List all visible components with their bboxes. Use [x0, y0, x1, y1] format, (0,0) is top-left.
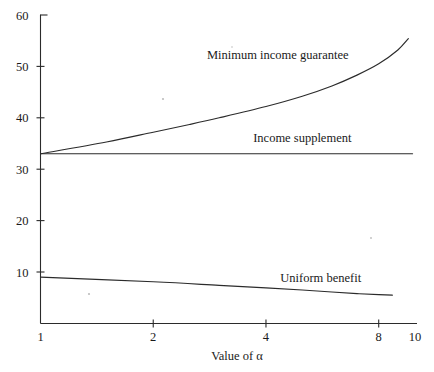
line-chart: 102030405060 124810 Minimum income guara…: [0, 0, 434, 372]
y-tick-label: 20: [16, 214, 29, 228]
series-label-income-supplement: Income supplement: [253, 131, 352, 145]
series-label-minimum-income-guarantee: Minimum income guarantee: [207, 48, 349, 62]
y-tick-label: 50: [16, 60, 29, 74]
x-tick-label: 10: [409, 330, 422, 344]
x-tick-label: 8: [376, 330, 382, 344]
y-tick-label: 60: [16, 9, 29, 23]
y-tick-label: 40: [16, 111, 29, 125]
x-axis-title: Value of α: [211, 349, 263, 363]
y-tick-label: 30: [16, 163, 29, 177]
x-tick-label: 4: [263, 330, 270, 344]
y-tick-label: 10: [16, 266, 29, 280]
x-tick-label: 2: [150, 330, 156, 344]
x-tick-label: 1: [37, 330, 43, 344]
chart-container: 102030405060 124810 Minimum income guara…: [0, 0, 434, 372]
series-label-uniform-benefit: Uniform benefit: [280, 271, 361, 285]
